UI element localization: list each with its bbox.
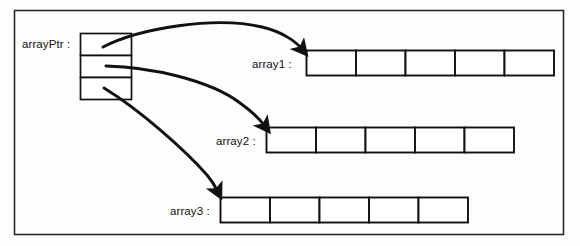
- array3-label: array3 :: [170, 205, 210, 217]
- array1-cell-3: [455, 51, 505, 76]
- array2-cell-2: [366, 128, 416, 153]
- array2-cell-1: [316, 128, 366, 153]
- array2-cell-0: [267, 128, 317, 153]
- array1-cell-0: [307, 51, 357, 76]
- array3-cell-4: [419, 198, 469, 223]
- array3-cells: [221, 198, 469, 223]
- array1-label: array1 :: [252, 58, 292, 70]
- arrow-to-array1: [103, 23, 301, 48]
- array2-label: array2 :: [216, 135, 256, 147]
- arrow-to-array3: [104, 88, 217, 190]
- array3-cell-1: [270, 198, 320, 223]
- arrayptr-label: arrayPtr :: [22, 38, 70, 50]
- array2-cell-4: [465, 128, 515, 153]
- array1-cell-2: [406, 51, 456, 76]
- array3-cell-0: [221, 198, 271, 223]
- array1-cells: [307, 51, 555, 76]
- array3-cell-3: [369, 198, 419, 223]
- diagram-canvas: [0, 0, 580, 246]
- array-pointer-diagram: arrayPtr : array1 : array2 : array3 :: [0, 0, 580, 246]
- array1-cell-4: [505, 51, 555, 76]
- array1-cell-1: [356, 51, 406, 76]
- array2-cell-3: [415, 128, 465, 153]
- array3-cell-2: [320, 198, 370, 223]
- array2-cells: [267, 128, 515, 153]
